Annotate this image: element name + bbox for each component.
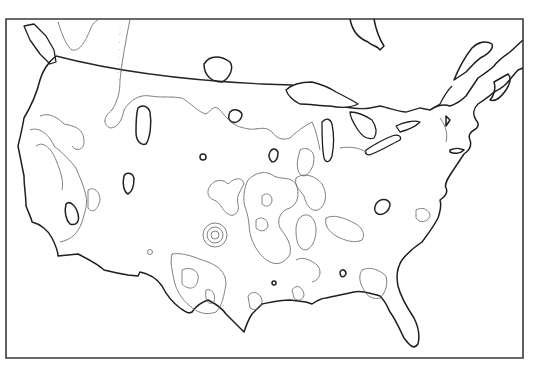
bold-contour-nevada	[123, 173, 134, 194]
map-figure	[0, 0, 539, 369]
gaspe-peninsula	[454, 42, 492, 80]
lake-superior	[286, 82, 358, 107]
bold-contour-alabama	[340, 270, 346, 277]
bold-contour-montana	[204, 57, 232, 82]
bold-contour-iowa	[269, 149, 278, 162]
nova-scotia	[490, 74, 510, 100]
lake-ontario	[396, 121, 420, 132]
contour-map	[0, 0, 539, 369]
bold-contour-idaho	[136, 106, 151, 144]
contour-small-circle	[148, 250, 153, 255]
bold-contour-california	[65, 203, 78, 225]
bold-contour-virginia	[375, 200, 390, 215]
vancouver-island	[24, 24, 56, 64]
bold-contour-wyoming	[200, 154, 206, 160]
lake-michigan	[322, 119, 334, 161]
lake-huron	[350, 112, 376, 139]
james-bay-coast	[350, 19, 384, 50]
cape-cod	[446, 116, 450, 126]
canada-us-border	[56, 56, 300, 88]
long-island	[450, 149, 464, 154]
hachured-contours	[30, 19, 447, 314]
bold-contour-dakota	[229, 110, 242, 123]
bold-contour-louisiana	[272, 281, 276, 285]
us-coastline	[18, 56, 523, 347]
